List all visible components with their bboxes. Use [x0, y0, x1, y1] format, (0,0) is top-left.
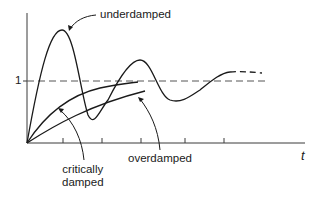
critically-damped-label-line1: critically — [62, 163, 104, 176]
underdamped-curve — [27, 30, 230, 143]
overdamped-label: overdamped — [128, 152, 192, 165]
overdamped-arrowhead — [138, 97, 144, 102]
overdamped-curve — [27, 91, 145, 143]
y-tick-label-one: 1 — [15, 74, 21, 87]
x-axis-label-t: t — [301, 149, 305, 162]
critically-damped-label-line2: damped — [62, 176, 104, 189]
x-axis-ticks — [63, 138, 224, 143]
damping-response-diagram: 1 t underdamped overdamped critically da… — [0, 0, 320, 198]
critically-damped-label: critically damped — [62, 163, 104, 189]
diagram-canvas — [0, 0, 320, 198]
underdamped-label: underdamped — [100, 8, 171, 21]
underdamped-curve-dashed-tail — [230, 72, 262, 73]
overdamped-pointer — [140, 99, 160, 150]
underdamped-pointer — [70, 15, 96, 29]
